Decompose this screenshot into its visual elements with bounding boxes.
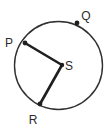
point-label-r: R — [29, 113, 38, 127]
circle-geometry-figure: P Q R S — [0, 0, 110, 130]
point-label-p: P — [5, 36, 13, 50]
segment-s-r — [40, 65, 62, 104]
point-dot-p — [23, 41, 28, 46]
circle-outline — [15, 22, 103, 110]
point-dot-q — [75, 21, 80, 26]
segment-p-s — [25, 43, 62, 65]
geometry-canvas: P Q R S — [0, 0, 110, 130]
point-dot-s — [60, 63, 64, 67]
point-label-q: Q — [81, 9, 90, 23]
point-dot-r — [38, 102, 43, 107]
point-label-s: S — [65, 59, 73, 73]
